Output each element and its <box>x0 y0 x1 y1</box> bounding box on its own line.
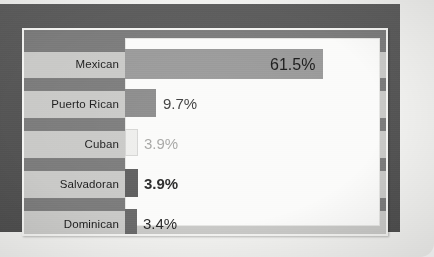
value-label-dominican: 3.4% <box>143 216 177 231</box>
category-label-cuban: Cuban <box>24 139 119 151</box>
category-label-puerto-rican: Puerto Rican <box>24 99 119 111</box>
chart-panel: Mexican Puerto Rican Cuban Salvadoran Do… <box>24 30 386 234</box>
category-label-mexican: Mexican <box>24 59 119 71</box>
bar-dominican <box>125 209 137 234</box>
value-label-mexican: 61.5% <box>270 57 315 73</box>
value-label-cuban: 3.9% <box>144 136 178 151</box>
category-label-dominican: Dominican <box>24 219 119 231</box>
value-label-salvadoran: 3.9% <box>144 176 178 191</box>
bar-cuban <box>125 129 138 156</box>
chart-panel-frame: Mexican Puerto Rican Cuban Salvadoran Do… <box>22 28 388 236</box>
value-label-puerto-rican: 9.7% <box>163 96 197 111</box>
screenshot-root: Mexican Puerto Rican Cuban Salvadoran Do… <box>0 0 434 257</box>
bar-salvadoran <box>125 169 138 197</box>
category-label-salvadoran: Salvadoran <box>24 179 119 191</box>
bar-puerto-rican <box>125 89 156 117</box>
